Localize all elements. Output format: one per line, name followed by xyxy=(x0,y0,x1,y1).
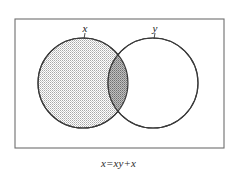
figure-caption: x=xy+x xyxy=(0,157,237,169)
set-label-y: y xyxy=(152,22,158,34)
venn-diagram-figure: x y x=xy+x xyxy=(0,0,237,187)
set-label-x: x xyxy=(82,22,88,34)
